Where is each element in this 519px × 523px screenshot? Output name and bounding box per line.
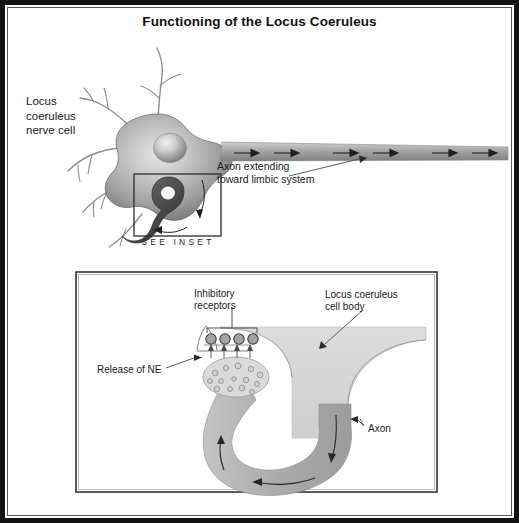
label-locus-coeruleus-cell-body: Locus coeruleus cell body (325, 289, 398, 313)
vesicle (232, 377, 236, 381)
hook-lumen (161, 187, 175, 200)
vesicle (248, 366, 253, 371)
label-inhibitory-receptors: Inhibitory receptors (194, 288, 236, 312)
receptor (206, 334, 216, 344)
receptor (220, 334, 230, 344)
vesicle (239, 385, 245, 391)
vesicle (235, 363, 241, 369)
vesicle (214, 386, 220, 392)
label-see-inset: SEE INSET (126, 237, 230, 247)
nucleus-shape (154, 134, 187, 163)
vesicle (228, 387, 233, 392)
vesicle (243, 377, 248, 382)
vesicle (257, 372, 263, 378)
vesicle (250, 390, 255, 395)
vesicle (219, 379, 224, 384)
vesicle (223, 365, 228, 370)
figure-root: Functioning of the Locus Coeruleus (0, 0, 519, 523)
upper-neuron-graphic (8, 8, 511, 515)
label-axon-extending-toward-limbic-system: Axon extending toward limbic system (217, 160, 314, 185)
vesicle (208, 379, 213, 384)
label-axon-inset: Axon (368, 422, 391, 436)
label-locus-coeruleus-nerve-cell: Locus coeruleus nerve cell (26, 94, 76, 138)
label-release-of-ne: Release of NE (97, 363, 161, 377)
vesicle (254, 381, 259, 386)
hook-arrowhead-down (196, 209, 203, 219)
receptor (234, 334, 244, 344)
figure-canvas: Functioning of the Locus Coeruleus (8, 8, 511, 515)
receptor (248, 334, 258, 344)
vesicle (212, 370, 218, 376)
